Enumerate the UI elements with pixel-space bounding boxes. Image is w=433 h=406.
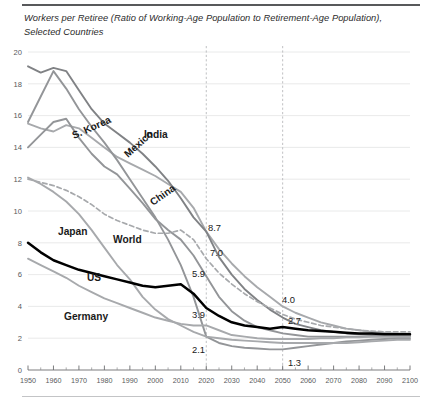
y-tick-label-20: 20 [14,48,22,57]
series-name-labels: S. KoreaIndiaMexicoChinaJapanWorldUSGerm… [58,114,178,322]
x-tick-label-2050: 2050 [275,376,291,385]
annotation-value-3-9: 3.9 [192,309,205,320]
y-tick-label-6: 6 [18,270,22,279]
annotation-value-5-9: 5.9 [192,268,205,279]
y-tick-label-18: 18 [14,80,22,89]
x-tick-label-2010: 2010 [173,376,189,385]
x-tick-label-1970: 1970 [71,376,87,385]
y-tick-label-4: 4 [18,302,22,311]
x-tick-label-2080: 2080 [351,376,367,385]
x-tick-label-1950: 1950 [20,376,36,385]
chart-plot-area: 02468101214161820 1950196019701980199020… [0,0,433,406]
x-tick-label-2020: 2020 [198,376,214,385]
x-tick-label-1990: 1990 [122,376,138,385]
y-tick-label-8: 8 [18,239,22,248]
annotation-value-8-7: 8.7 [208,222,221,233]
series-label-mexico: Mexico [122,128,155,159]
x-axis-tick-labels: 1950196019701980199020002010202020302040… [20,376,418,385]
axes-group [28,366,410,371]
x-tick-label-2000: 2000 [147,376,163,385]
series-group [28,66,410,349]
x-tick-label-2090: 2090 [377,376,393,385]
series-label-world: World [113,234,142,245]
series-label-japan: Japan [58,226,87,237]
y-tick-label-16: 16 [14,111,22,120]
y-tick-label-0: 0 [18,366,22,375]
y-tick-label-14: 14 [14,143,22,152]
x-tick-label-1960: 1960 [45,376,61,385]
series-label-us: US [87,272,101,283]
annotation-value-2-7: 2.7 [288,315,301,326]
x-tick-label-1980: 1980 [96,376,112,385]
series-line-s-korea [28,71,410,349]
series-label-germany: Germany [64,311,109,322]
chart-figure: Workers per Retiree (Ratio of Working-Ag… [0,0,433,406]
x-tick-label-2100: 2100 [402,376,418,385]
annotation-value-4-0: 4.0 [282,294,295,305]
annotation-value-2-1: 2.1 [192,344,205,355]
y-tick-label-2: 2 [18,334,22,343]
y-axis-tick-labels: 02468101214161820 [14,48,22,375]
y-tick-label-10: 10 [14,207,22,216]
x-tick-label-2040: 2040 [249,376,265,385]
y-tick-label-12: 12 [14,175,22,184]
series-label-china: China [148,182,178,207]
x-tick-label-2060: 2060 [300,376,316,385]
annotation-value-1-3: 1.3 [288,357,301,368]
x-tick-label-2030: 2030 [224,376,240,385]
annotation-value-7-0: 7.0 [210,247,223,258]
x-tick-label-2070: 2070 [326,376,342,385]
